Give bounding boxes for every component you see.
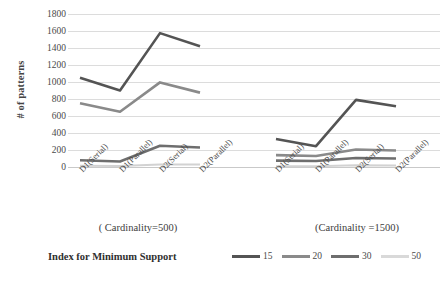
group-caption-right: (Cardinality =1500) xyxy=(272,222,442,233)
y-tick-200: 200 xyxy=(52,145,66,155)
series-15-group2 xyxy=(276,100,396,146)
y-tick-1400: 1400 xyxy=(47,43,66,53)
legend-item-20[interactable]: 20 xyxy=(282,251,323,261)
y-tick-1000: 1000 xyxy=(47,77,66,87)
legend: Index for Minimum Support 15203050 xyxy=(0,248,448,272)
legend-swatch-icon-15 xyxy=(232,255,260,258)
chart-figure: # of patterns 18001600140012001000800600… xyxy=(0,0,448,283)
group-caption-left: ( Cardinality=500) xyxy=(58,222,218,233)
legend-item-50[interactable]: 50 xyxy=(381,251,422,261)
series-lines xyxy=(68,14,440,167)
plot-area xyxy=(68,14,440,167)
legend-swatch-icon-20 xyxy=(282,255,310,258)
legend-item-30[interactable]: 30 xyxy=(331,251,372,261)
series-50-group1 xyxy=(80,164,200,166)
legend-label-30: 30 xyxy=(362,251,372,261)
y-tick-600: 600 xyxy=(52,111,66,121)
series-20-group1 xyxy=(80,82,200,111)
series-15-group1 xyxy=(80,33,200,90)
legend-items: 15203050 xyxy=(232,251,421,261)
legend-swatch-icon-50 xyxy=(381,255,409,258)
y-tick-800: 800 xyxy=(52,94,66,104)
legend-label-50: 50 xyxy=(412,251,422,261)
legend-label-15: 15 xyxy=(263,251,273,261)
y-axis-tick-labels: 180016001400120010008006004002000 xyxy=(24,0,66,180)
y-tick-400: 400 xyxy=(52,128,66,138)
y-tick-1200: 1200 xyxy=(47,60,66,70)
y-tick-1800: 1800 xyxy=(47,9,66,19)
x-axis-tick-labels: D1(Serial)D1(Parallel)D2(Serial)D2(Paral… xyxy=(0,167,448,217)
legend-swatch-icon-30 xyxy=(331,255,359,258)
legend-title: Index for Minimum Support xyxy=(48,251,176,262)
legend-label-20: 20 xyxy=(313,251,323,261)
legend-item-15[interactable]: 15 xyxy=(232,251,273,261)
y-tick-1600: 1600 xyxy=(47,26,66,36)
